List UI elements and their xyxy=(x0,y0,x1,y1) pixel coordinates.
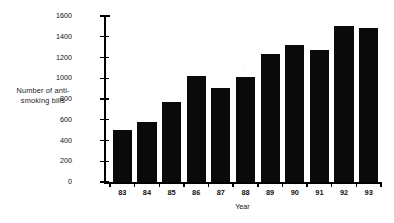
x-axis-tick-label: 87 xyxy=(208,189,234,197)
x-axis-tick-label: 91 xyxy=(306,189,332,197)
x-axis-tick xyxy=(282,182,283,187)
y-axis-tick-label: 0 xyxy=(42,178,72,185)
x-axis-tick xyxy=(208,182,209,187)
y-axis-tick-label: 600 xyxy=(42,116,72,123)
y-axis-tick-label: 400 xyxy=(42,137,72,144)
x-axis-tick xyxy=(257,182,258,187)
bar xyxy=(310,50,329,182)
x-axis-title: Year xyxy=(104,202,381,211)
x-axis-tick xyxy=(380,182,381,187)
y-axis-tick-label: 800 xyxy=(42,95,72,102)
bar xyxy=(137,122,156,182)
bar xyxy=(211,88,230,182)
y-axis-tick xyxy=(100,78,109,79)
x-axis-tick-label: 90 xyxy=(282,189,308,197)
plot-area: 02004006008001000120014001600 8384858687… xyxy=(104,16,381,182)
x-axis-tick-label: 89 xyxy=(257,189,283,197)
x-axis-tick xyxy=(306,182,307,187)
bar xyxy=(113,130,132,182)
y-axis-tick-label: 1000 xyxy=(42,74,72,81)
x-axis-line xyxy=(104,182,381,184)
y-axis-tick xyxy=(100,57,109,58)
x-axis-tick-label: 88 xyxy=(233,189,259,197)
bar xyxy=(285,45,304,182)
y-axis-tick xyxy=(100,15,109,16)
y-axis-tick xyxy=(100,181,109,182)
bar xyxy=(334,26,353,182)
bar-chart: Number of anti- smoking bills 0200400600… xyxy=(0,0,394,223)
x-axis-tick-label: 84 xyxy=(134,189,160,197)
y-axis-tick-label: 1600 xyxy=(42,12,72,19)
bar xyxy=(162,102,181,182)
bar xyxy=(236,77,255,182)
x-axis-tick-label: 86 xyxy=(183,189,209,197)
x-axis-tick xyxy=(134,182,135,187)
x-axis-tick-label: 85 xyxy=(159,189,185,197)
x-axis-tick xyxy=(356,182,357,187)
x-axis-tick xyxy=(183,182,184,187)
y-axis-tick-label: 1200 xyxy=(42,54,72,61)
bar xyxy=(359,28,378,182)
y-axis-tick xyxy=(100,161,109,162)
y-axis-tick xyxy=(100,36,109,37)
x-axis-tick-label: 83 xyxy=(109,189,135,197)
x-axis-tick xyxy=(159,182,160,187)
bar xyxy=(261,54,280,182)
x-axis-tick xyxy=(331,182,332,187)
y-axis-tick-label: 1400 xyxy=(42,33,72,40)
y-axis-tick xyxy=(100,98,109,99)
x-axis-tick xyxy=(109,182,110,187)
bar xyxy=(187,76,206,182)
y-axis-tick-label: 200 xyxy=(42,157,72,164)
x-axis-tick-label: 93 xyxy=(356,189,382,197)
x-axis-tick xyxy=(232,182,233,187)
x-axis-tick-label: 92 xyxy=(331,189,357,197)
y-axis-tick xyxy=(100,140,109,141)
y-axis-tick xyxy=(100,119,109,120)
